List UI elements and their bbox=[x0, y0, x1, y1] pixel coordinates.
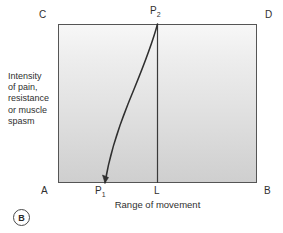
corner-label-a: A bbox=[41, 186, 48, 196]
pain-intensity-curve bbox=[105, 24, 158, 183]
p1-arrowhead-icon bbox=[103, 175, 109, 183]
y-axis-title: Intensity of pain, resistance or muscle … bbox=[8, 71, 55, 127]
y-axis-title-line-3: resistance bbox=[8, 93, 55, 104]
point-label-p2-sub: 2 bbox=[157, 11, 161, 18]
figure-badge: B bbox=[13, 209, 30, 226]
plot-graphics bbox=[58, 24, 257, 183]
movement-diagram-figure: C D A B P2 P1 L Intensity of pain, resis… bbox=[0, 0, 283, 233]
x-axis-title: Range of movement bbox=[58, 199, 257, 210]
y-axis-title-line-5: spasm bbox=[8, 116, 55, 127]
point-label-limit: L bbox=[154, 186, 160, 196]
point-label-p1: P1 bbox=[95, 186, 106, 198]
corner-label-d: D bbox=[265, 10, 272, 20]
corner-label-c: C bbox=[39, 10, 46, 20]
point-label-p1-main: P bbox=[95, 185, 102, 196]
point-label-p1-sub: 1 bbox=[102, 191, 106, 198]
y-axis-title-line-1: Intensity bbox=[8, 71, 55, 82]
y-axis-title-line-2: of pain, bbox=[8, 82, 55, 93]
corner-label-b: B bbox=[264, 186, 271, 196]
y-axis-title-line-4: or muscle bbox=[8, 105, 55, 116]
point-label-p2: P2 bbox=[150, 6, 161, 18]
point-label-p2-main: P bbox=[150, 5, 157, 16]
